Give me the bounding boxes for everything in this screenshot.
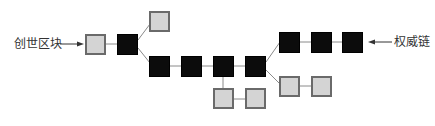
main-chain-label: 权威链 [394, 35, 430, 49]
main-chain-block [213, 56, 234, 77]
main-chain-block [181, 56, 202, 77]
blockchain-fork-diagram: 创世区块 权威链 [0, 0, 435, 126]
main-chain-block [279, 32, 300, 53]
main-chain-block [117, 34, 138, 55]
main-chain-block [245, 56, 266, 77]
main-chain-block [149, 56, 170, 77]
genesis-block-label: 创世区块 [14, 37, 62, 51]
orphan-block [149, 11, 170, 32]
genesis-arrow-icon [60, 42, 84, 47]
genesis-block [85, 34, 106, 55]
orphan-block [245, 88, 266, 109]
orphan-block [213, 88, 234, 109]
main-chain-block [311, 32, 332, 53]
main-chain-block [342, 32, 363, 53]
orphan-block [279, 76, 300, 97]
main-chain-arrow-icon [368, 40, 392, 45]
orphan-block [311, 76, 332, 97]
